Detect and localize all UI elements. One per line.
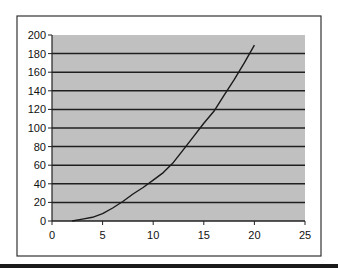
y-tick-label: 100	[28, 122, 46, 134]
y-tick-label: 200	[28, 29, 46, 41]
x-tick-label: 25	[299, 229, 311, 241]
x-tick-label: 15	[198, 229, 210, 241]
y-tick-label: 140	[28, 85, 46, 97]
y-tick-label: 160	[28, 66, 46, 78]
bottom-divider	[0, 264, 338, 268]
y-tick-label: 60	[34, 159, 46, 171]
y-tick-label: 40	[34, 178, 46, 190]
x-tick-label: 10	[147, 229, 159, 241]
y-tick-label: 180	[28, 48, 46, 60]
x-tick-label: 5	[100, 229, 106, 241]
y-tick-label: 20	[34, 196, 46, 208]
y-tick-label: 120	[28, 103, 46, 115]
y-tick-label: 0	[40, 215, 46, 227]
y-tick-label: 80	[34, 141, 46, 153]
x-tick-label: 20	[248, 229, 260, 241]
x-tick-label: 0	[49, 229, 55, 241]
chart: 020406080100120140160180200 0510152025	[0, 0, 338, 269]
